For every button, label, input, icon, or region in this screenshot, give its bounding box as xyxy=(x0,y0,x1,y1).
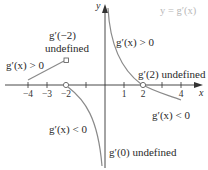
annotation-undefined: undefined xyxy=(45,43,89,54)
y-axis-label: y xyxy=(96,1,100,11)
annotation-upper-right-positive: g′(x) > 0 xyxy=(116,37,154,48)
tick-label: −4 xyxy=(23,90,33,100)
graph-title: y = g′(x) xyxy=(160,6,196,17)
annotation-left-positive: g′(x) > 0 xyxy=(6,60,44,71)
annotation-right-negative: g′(x) < 0 xyxy=(152,110,190,121)
open-circle-pos2-icon xyxy=(140,82,145,87)
annotation-gprime-neg2: g′(−2) xyxy=(49,30,76,41)
graph-canvas xyxy=(0,0,208,170)
annotation-gprime-2-undefined: g′(2) undefined xyxy=(138,69,205,80)
annotation-left-negative: g′(x) < 0 xyxy=(49,124,87,135)
tick-label: −3 xyxy=(42,90,52,100)
tick-label: 1 xyxy=(122,90,127,100)
tick-label: 4 xyxy=(179,90,184,100)
open-endpoint-icon xyxy=(64,58,69,63)
annotation-gprime-0-undefined: g′(0) undefined xyxy=(109,147,176,158)
tick-label: −2 xyxy=(61,90,71,100)
x-axis-label: x xyxy=(199,88,203,98)
tick-label: 2 xyxy=(141,90,146,100)
open-circle-neg2-icon xyxy=(63,82,68,87)
y-axis-arrow-icon xyxy=(102,4,108,13)
derivative-graph: y = g′(x) y x −4 −3 −2 1 2 4 g′(−2) unde… xyxy=(0,0,208,170)
